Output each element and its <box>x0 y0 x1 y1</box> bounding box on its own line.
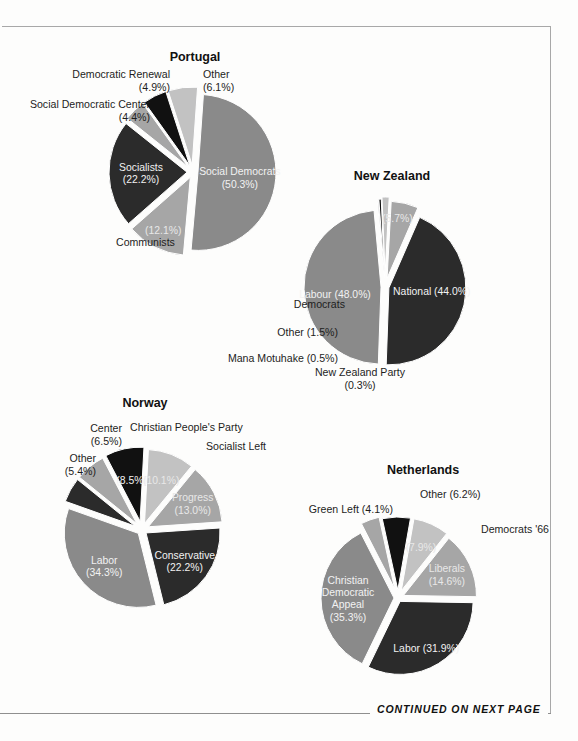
slice-label: Labor <box>91 555 118 566</box>
label-portugal-communists: Communists <box>116 236 175 249</box>
label-line: Green Left (4.1%) <box>265 503 393 516</box>
label-line: (4.9%) <box>10 81 170 94</box>
label-line: Other <box>203 68 234 81</box>
label-line: (4.4%) <box>0 111 150 124</box>
label-portugal-other: Other (6.1%) <box>203 68 234 93</box>
slice-shape <box>304 210 381 364</box>
slice-label: Progress <box>172 492 214 503</box>
label-line: Socialist Left <box>206 440 266 453</box>
label-line: Mana Motuhake (0.5%) <box>110 352 338 365</box>
label-line: Other (1.5%) <box>170 326 338 339</box>
label-nz-other: Other (1.5%) <box>170 326 338 339</box>
chart-new-zealand: New Zealand Labour (48.0%)(5.7%)National… <box>200 160 578 400</box>
slice-label: Liberals <box>429 563 465 574</box>
label-nz-mana-motuhake: Mana Motuhake (0.5%) <box>110 352 338 365</box>
label-norway-socialist-left: Socialist Left <box>206 440 266 453</box>
chart-title-netherlands: Netherlands <box>368 463 478 477</box>
slice-label: Conservative <box>154 550 215 561</box>
label-line: (6.1%) <box>203 81 234 94</box>
slice-label: (12.1%) <box>145 225 181 236</box>
label-line: Center <box>10 422 122 435</box>
chart-title-portugal: Portugal <box>150 50 240 64</box>
label-line: (5.4%) <box>0 465 96 478</box>
label-line: (6.5%) <box>10 435 122 448</box>
slice-label: (22.2%) <box>167 562 203 573</box>
continued-on-next-page-note: CONTINUED ON NEXT PAGE <box>370 703 548 715</box>
pie-slice-labor: Labor(34.3%) <box>64 509 156 608</box>
label-line: Other <box>0 452 96 465</box>
slice-label: (35.3%) <box>330 612 366 623</box>
label-nz-democrats: Democrats <box>190 298 345 311</box>
slice-label: Labor (31.9%) <box>393 643 459 654</box>
label-norway-other: Other (5.4%) <box>0 452 96 477</box>
chart-netherlands: Netherlands (7.9%)Liberals(14.6%)Labor (… <box>285 455 578 680</box>
label-norway-christian-peoples-party: Christian People's Party <box>130 421 243 434</box>
label-norway-center: Center (6.5%) <box>10 422 122 447</box>
slice-label: (34.3%) <box>86 567 122 578</box>
label-line: Democrats <box>190 298 345 311</box>
slice-label: (10.1%) <box>143 475 179 486</box>
label-line: Communists <box>116 236 175 249</box>
label-line: Christian People's Party <box>130 421 243 434</box>
label-line: Democrats '66 <box>481 523 549 536</box>
slice-label: Appeal <box>332 599 364 610</box>
label-line: Other (6.2%) <box>420 488 481 501</box>
slice-label: (22.2%) <box>123 174 159 185</box>
label-nz-new-zealand-party: New Zealand Party (0.3%) <box>280 366 440 391</box>
pie-slice-conservative: Conservative(22.2%) <box>146 528 220 605</box>
pie-slice-labour: Labour (48.0%) <box>299 210 381 364</box>
slice-label: National (44.0%) <box>393 286 470 297</box>
slice-label: Christian <box>328 575 369 586</box>
slice-label: (8.5%) <box>116 475 147 486</box>
label-netherlands-other: Other (6.2%) <box>420 488 481 501</box>
label-line: Social Democratic Center <box>0 98 150 111</box>
slice-label: (5.7%) <box>382 213 413 224</box>
slice-label: (13.0%) <box>174 505 210 516</box>
slice-label: Socialists <box>119 162 163 173</box>
label-line: Democratic Renewal <box>10 68 170 81</box>
label-portugal-democratic-renewal: Democratic Renewal (4.9%) <box>10 68 170 93</box>
slice-label: Democratic <box>322 587 375 598</box>
label-netherlands-democrats-66: Democrats '66 <box>481 523 549 536</box>
slice-label: (7.9%) <box>406 542 437 553</box>
label-line: New Zealand Party <box>280 366 440 379</box>
chart-title-norway: Norway <box>105 396 185 410</box>
chart-title-new-zealand: New Zealand <box>337 169 447 183</box>
slice-label: (14.6%) <box>429 576 465 587</box>
label-portugal-social-democratic-center: Social Democratic Center (4.4%) <box>0 98 150 123</box>
label-netherlands-green-left: Green Left (4.1%) <box>265 503 393 516</box>
